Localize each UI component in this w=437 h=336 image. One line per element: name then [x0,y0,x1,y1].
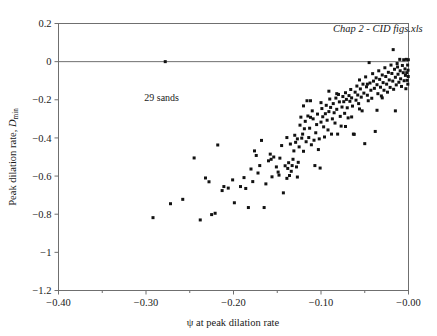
data-point [270,158,273,161]
data-point [311,109,314,112]
data-point [297,161,300,164]
data-point [341,106,344,109]
data-point [368,61,371,64]
data-point [316,113,319,116]
data-point [396,62,399,65]
data-point [278,174,281,177]
data-point [355,85,358,88]
data-point [280,144,283,147]
data-point [319,167,322,170]
data-point [328,98,331,101]
data-point [275,165,278,168]
data-point [286,167,289,170]
data-point [288,174,291,177]
data-point [407,58,410,61]
data-point [318,137,321,140]
data-point [361,109,364,112]
data-point [301,133,304,136]
data-point [374,130,377,133]
data-point [309,116,312,119]
data-point [406,83,409,86]
data-point [332,102,335,105]
data-point [407,69,410,72]
x-tick-label: −0.30 [134,297,158,308]
data-point [214,212,217,215]
data-point [250,168,253,171]
data-point [290,170,293,173]
data-point [193,156,196,159]
data-point [315,123,318,126]
data-point [239,185,242,188]
data-point [392,48,395,51]
data-point [307,136,310,139]
data-point [400,85,403,88]
data-point [381,96,384,99]
data-point [296,137,299,140]
data-point [294,141,297,144]
data-point [333,111,336,114]
data-point [391,80,394,83]
data-point [403,79,406,82]
data-point [255,154,258,157]
data-point [401,64,404,67]
data-point [335,108,338,111]
data-point [407,75,410,78]
data-point [390,72,393,75]
data-point [395,83,398,86]
data-point [394,76,397,79]
data-point [364,75,367,78]
data-point [181,198,184,201]
x-tick-label: −0.40 [46,297,70,308]
data-point [387,71,390,74]
data-point [302,104,305,107]
data-point [348,94,351,97]
chart-background [0,0,437,336]
data-point [375,76,378,79]
data-point [385,83,388,86]
data-point [377,69,380,72]
data-point [341,95,344,98]
data-point [244,187,247,190]
data-point [322,125,325,128]
data-point [326,119,329,122]
data-point [277,171,280,174]
data-point [366,83,369,86]
data-point [320,101,323,104]
data-point [269,153,272,156]
annotation-sample-count: 29 sands [144,92,179,103]
data-point [327,128,330,131]
data-point [344,91,347,94]
data-point [291,164,294,167]
data-point [303,127,306,130]
data-point [287,161,290,164]
data-point [384,75,387,78]
data-point [233,201,236,204]
data-point [338,100,341,103]
data-point [404,67,407,70]
data-point [370,97,373,100]
data-point [349,88,352,91]
data-point [309,99,312,102]
data-point [317,148,320,151]
data-point [386,91,389,94]
data-point [320,107,323,110]
data-point [331,117,334,120]
data-point [392,88,395,91]
scatter-plot-svg: −0.40−0.30−0.20−0.10−0.00 0.20−0.2−0.4−0… [0,0,437,336]
data-point [379,86,382,89]
x-tick-label: −0.20 [221,297,245,308]
data-point [355,99,358,102]
x-tick-label: −0.00 [396,297,420,308]
data-point [358,78,361,81]
data-point [397,81,400,84]
data-point [382,81,385,84]
data-point [345,98,348,101]
data-point [346,106,349,109]
data-point [383,66,386,69]
data-point [306,99,309,102]
data-point [369,82,372,85]
data-point [299,124,302,127]
data-point [302,150,305,153]
data-point [396,65,399,68]
data-point [285,177,288,180]
